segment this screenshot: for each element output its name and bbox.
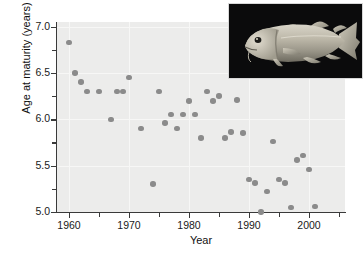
y-axis-tick-minor [52,142,56,143]
y-axis-line [56,22,57,213]
scatter-point [114,89,120,95]
scatter-point [138,126,144,132]
fish-inset-photo [228,3,363,79]
scatter-point [306,167,312,173]
scatter-point [258,209,264,215]
scatter-point [78,79,84,85]
y-axis-tick [51,73,56,74]
y-axis-tick [51,27,56,28]
scatter-point [216,93,222,99]
x-axis-tick-minor [219,213,220,217]
scatter-point [300,153,306,159]
x-axis-tick-minor [159,213,160,217]
y-axis-tick [51,212,56,213]
gridline-vertical [69,22,70,212]
x-axis-tick [249,213,250,218]
y-axis-title: Age at maturity (years) [20,0,32,138]
scatter-point [294,157,300,163]
y-axis-tick [51,166,56,167]
scatter-point [108,117,114,123]
y-axis-tick-label: 6.5 [35,66,50,78]
figure-scatter-age-at-maturity: Age at maturity (years) Year [0,0,363,256]
x-axis-tick [309,213,310,218]
gridline-vertical [129,22,130,212]
y-axis-tick-label: 6.0 [35,112,50,124]
scatter-point [252,180,258,186]
y-axis-tick-label: 7.0 [35,20,50,32]
x-axis-tick-minor [279,213,280,217]
x-axis-title: Year [57,234,345,246]
scatter-point [246,177,252,183]
scatter-point [288,205,294,211]
scatter-point [276,177,282,183]
scatter-point [234,97,240,103]
x-axis-tick [189,213,190,218]
scatter-point [240,130,246,136]
x-axis-tick-label: 1960 [57,219,80,231]
x-axis-tick-label: 1970 [117,219,140,231]
scatter-point [198,135,204,141]
scatter-point [312,204,318,210]
scatter-point [84,89,90,95]
scatter-point [96,89,102,95]
y-axis-tick-minor [52,189,56,190]
scatter-point [72,70,78,76]
scatter-point [156,89,162,95]
x-axis-tick-minor [339,213,340,217]
gridline-horizontal [57,119,345,120]
x-axis-tick-label: 2000 [297,219,320,231]
scatter-point [222,135,228,141]
x-axis-tick [129,213,130,218]
x-axis-tick-label: 1980 [177,219,200,231]
scatter-point [66,40,72,46]
cod-fish-icon [229,4,362,78]
scatter-point [270,139,276,145]
y-axis-tick-minor [52,96,56,97]
scatter-point [186,98,192,104]
scatter-point [120,89,126,95]
scatter-point [204,89,210,95]
x-axis-tick-label: 1990 [237,219,260,231]
scatter-point [162,120,168,126]
scatter-point [282,180,288,186]
y-axis-tick [51,119,56,120]
scatter-point [150,181,156,187]
x-axis-tick [69,213,70,218]
gridline-vertical [189,22,190,212]
y-axis-tick-label: 5.5 [35,159,50,171]
scatter-point [228,129,234,135]
y-axis-tick-minor [52,50,56,51]
scatter-point [174,126,180,132]
y-axis-tick-label: 5.0 [35,205,50,217]
x-axis-tick-minor [99,213,100,217]
scatter-point [210,98,216,104]
gridline-horizontal [57,166,345,167]
